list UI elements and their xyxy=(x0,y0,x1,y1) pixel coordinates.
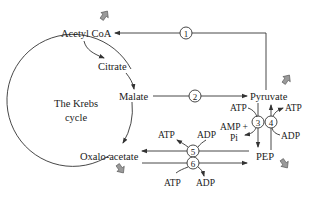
cofactor-e3-amp: AMP + xyxy=(220,122,248,132)
down-indicator-arrow-icon xyxy=(278,157,291,170)
enzyme-6-label: 6 xyxy=(191,159,196,169)
down-indicator-arrow-icon xyxy=(114,162,127,175)
cycle-label-line2: cycle xyxy=(65,112,87,123)
enzyme-2-label: 2 xyxy=(193,92,198,102)
krebs-diagram: The Krebs cycle Acetyl CoA Citrate Malat… xyxy=(0,0,314,199)
node-pyruvate: Pyruvate xyxy=(250,91,288,102)
e4-atp-out-curve xyxy=(273,108,283,116)
enzyme-1-label: 1 xyxy=(184,29,189,39)
cofactor-e6-adp: ADP xyxy=(196,178,215,188)
node-pep: PEP xyxy=(256,151,274,162)
acetylcoa-to-citrate-arrow xyxy=(84,41,104,58)
e6-atp-in-curve xyxy=(176,167,188,173)
cofactor-e4-atp: ATP xyxy=(285,103,302,113)
e4-adp-in-curve xyxy=(272,128,280,135)
enzyme-5-label: 5 xyxy=(191,147,196,157)
up-indicator-arrow-icon xyxy=(280,73,293,86)
cofactor-e5-atp: ATP xyxy=(158,130,175,140)
cofactor-e3-atp: ATP xyxy=(230,103,247,113)
e6-adp-out-curve xyxy=(198,167,204,176)
cofactor-e6-atp: ATP xyxy=(164,178,181,188)
cofactor-e3-pi: Pi xyxy=(230,133,238,143)
up-indicator-arrow-icon xyxy=(98,9,111,22)
e5-atp-out-curve xyxy=(177,140,188,147)
e5-adp-in-curve xyxy=(198,140,206,147)
node-citrate: Citrate xyxy=(98,61,127,72)
cofactor-e5-adp: ADP xyxy=(197,130,216,140)
node-acetyl-coa: Acetyl CoA xyxy=(61,28,112,39)
cofactor-e4-adp: ADP xyxy=(281,131,300,141)
enzyme-3-label: 3 xyxy=(256,118,261,128)
e3-atp-in-curve xyxy=(248,108,257,117)
node-oxaloacetate: Oxalo-acetate xyxy=(80,151,139,162)
citrate-to-malate-arrow xyxy=(126,73,134,89)
enzyme-4-label: 4 xyxy=(269,118,274,128)
node-malate: Malate xyxy=(119,91,148,102)
pyruvate-to-acetylcoa-arrow xyxy=(115,33,266,90)
cycle-label-line1: The Krebs xyxy=(54,98,98,109)
